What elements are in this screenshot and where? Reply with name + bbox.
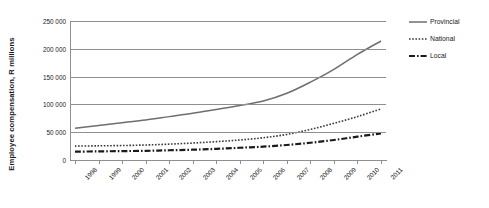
x-axis-tick-mark: [381, 161, 382, 164]
x-axis-tick-mark: [287, 161, 288, 164]
legend-item-local[interactable]: Local: [409, 47, 487, 64]
legend-item-provincial[interactable]: Provincial: [409, 13, 487, 30]
x-axis-tick-mark: [216, 161, 217, 164]
x-axis-tick-mark: [334, 161, 335, 164]
y-axis-tick-label: 50 000: [22, 129, 66, 136]
legend-label: National: [430, 35, 455, 42]
x-axis-tick-label: 2001: [154, 166, 169, 181]
x-axis-tick-mark: [146, 161, 147, 164]
plot-area: [70, 21, 386, 160]
gridline: [70, 77, 386, 78]
gridline: [70, 49, 386, 50]
x-axis-tick-mark: [193, 161, 194, 164]
x-axis-line: [70, 160, 387, 161]
series-layer: [70, 21, 386, 160]
x-axis-tick-mark: [263, 161, 264, 164]
legend-swatch-dotted-icon: [409, 35, 427, 43]
series-line-provincial: [75, 41, 381, 128]
y-axis-tick-label: 250 000: [22, 18, 66, 25]
x-axis-tick-mark: [310, 161, 311, 164]
y-axis-tick-label: 100 000: [22, 101, 66, 108]
y-axis-tick-label: 150 000: [22, 73, 66, 80]
x-axis-tick-label: 2002: [177, 166, 192, 181]
y-axis-tick-label: 0: [22, 157, 66, 164]
x-axis-tick-label: 2009: [342, 166, 357, 181]
series-line-local: [75, 133, 381, 151]
x-axis-tick-label: 2011: [389, 166, 404, 181]
x-axis-tick-mark: [169, 161, 170, 164]
x-axis-tick-label: 2008: [319, 166, 334, 181]
x-axis-tick-label: 2005: [248, 166, 263, 181]
legend-label: Local: [430, 52, 446, 59]
legend-label: Provincial: [430, 18, 459, 25]
x-axis-tick-label: 2003: [201, 166, 216, 181]
x-axis-tick-mark: [240, 161, 241, 164]
gridline: [70, 132, 386, 133]
chart-legend: ProvincialNationalLocal: [409, 13, 487, 64]
x-axis-tick-label: 1999: [107, 166, 122, 181]
x-axis-tick-mark: [75, 161, 76, 164]
x-axis-tick-label: 2000: [130, 166, 145, 181]
y-axis-tick-labels: 050 000100 000150 000200 000250 000: [18, 21, 66, 160]
x-axis-tick-label: 2010: [366, 166, 381, 181]
x-axis-tick-mark: [357, 161, 358, 164]
x-axis-tick-label: 2006: [271, 166, 286, 181]
x-axis-tick-label: 1998: [83, 166, 98, 181]
line-chart: Employee compensation, R millions 050 00…: [0, 0, 489, 208]
legend-swatch-dashdot-icon: [409, 52, 427, 60]
legend-item-national[interactable]: National: [409, 30, 487, 47]
x-axis-tick-mark: [122, 161, 123, 164]
y-axis-tick-label: 200 000: [22, 45, 66, 52]
x-axis-tick-label: 2004: [224, 166, 239, 181]
x-axis-tick-mark: [99, 161, 100, 164]
gridline: [70, 104, 386, 105]
x-axis-tick-label: 2007: [295, 166, 310, 181]
gridline: [70, 21, 386, 22]
legend-swatch-solid-icon: [409, 18, 427, 26]
